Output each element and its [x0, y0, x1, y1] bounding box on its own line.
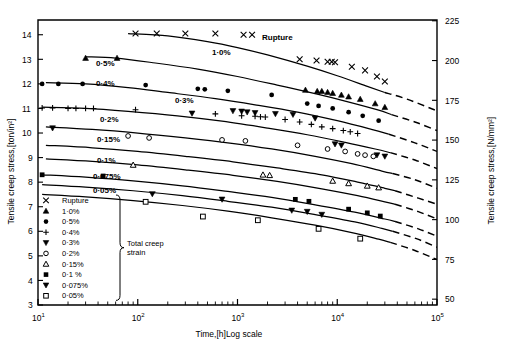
- marker-circle-filled: [44, 219, 49, 224]
- legend-item-label: 0·05%: [62, 291, 84, 300]
- marker-circle-open: [343, 149, 348, 154]
- marker-circle-filled: [316, 104, 321, 109]
- legend-item-label: 0·5%: [62, 217, 80, 226]
- marker-circle-open: [243, 139, 248, 144]
- curve-label-rupture: Rupture: [262, 33, 293, 42]
- marker-circle-filled: [330, 106, 335, 111]
- curve-label-0-1: 0·1%: [97, 156, 116, 165]
- marker-circle-filled: [360, 113, 365, 118]
- marker-circle-filled: [225, 88, 230, 93]
- curve-label-0-05: 0·05%: [93, 186, 116, 195]
- legend-group-label-line2: strain: [127, 248, 145, 257]
- marker-circle-open: [44, 251, 49, 256]
- marker-square-open: [201, 214, 206, 219]
- marker-square-filled: [365, 210, 370, 215]
- curve-label-0-5: 0·5%: [96, 59, 115, 68]
- marker-square-filled: [40, 172, 45, 177]
- y-tick-label-left: 12: [22, 79, 32, 89]
- y-tick-label-left: 7: [28, 202, 33, 212]
- y-tick-label-left: 4: [28, 276, 33, 286]
- marker-circle-open: [220, 138, 225, 143]
- marker-circle-filled: [376, 118, 381, 123]
- marker-square-open: [316, 226, 321, 231]
- marker-circle-filled: [346, 110, 351, 115]
- marker-square-open: [44, 294, 49, 299]
- y-tick-label-left: 11: [22, 104, 31, 114]
- y-tick-label-left: 5: [28, 251, 33, 261]
- y-tick-label-right: 100: [445, 215, 459, 225]
- marker-circle-filled: [80, 82, 85, 87]
- marker-circle-open: [126, 134, 131, 139]
- legend-item-label: 1·0%: [62, 207, 80, 216]
- curve-label-0-4: 0·3%: [175, 96, 194, 105]
- marker-square-filled: [44, 272, 49, 277]
- marker-square-filled: [307, 199, 312, 204]
- legend-item-label: 0·2%: [62, 249, 80, 258]
- legend-item-label: 0·15%: [62, 260, 84, 269]
- marker-circle-filled: [269, 93, 274, 98]
- y-tick-label-right: 175: [445, 96, 459, 106]
- legend-item-label: 0·1 %: [62, 270, 82, 279]
- y-tick-label-right: 125: [445, 175, 459, 185]
- y-tick-label-right: 200: [445, 56, 459, 66]
- marker-square-filled: [346, 207, 351, 212]
- marker-circle-filled: [40, 82, 45, 87]
- marker-circle-filled: [305, 101, 310, 106]
- creep-stress-vs-time-chart: 1011021031041053456789101112131450751001…: [0, 0, 507, 345]
- y-tick-label-left: 10: [22, 128, 32, 138]
- legend-item-label: 0·4%: [62, 228, 80, 237]
- chart-figure: 1011021031041053456789101112131450751001…: [0, 0, 507, 345]
- marker-circle-filled: [56, 82, 61, 87]
- marker-circle-open: [371, 154, 376, 159]
- legend-group-label-line1: Total creep: [127, 239, 164, 248]
- y-tick-label-left: 8: [28, 177, 33, 187]
- legend-item-label: 0·3%: [62, 238, 80, 247]
- marker-circle-filled: [202, 87, 207, 92]
- marker-circle-filled: [195, 86, 200, 91]
- legend-item-label: 0·075%: [62, 281, 88, 290]
- y-tick-label-right: 150: [445, 135, 459, 145]
- legend-item-label: Rupture: [62, 196, 89, 205]
- marker-circle-open: [147, 136, 152, 141]
- x-axis-title: Time,[h]Log scale: [196, 329, 263, 339]
- y-tick-label-left: 3: [28, 300, 33, 310]
- y-tick-label-left: 13: [22, 55, 32, 65]
- curve-label-0-2: 0·2%: [100, 115, 119, 124]
- y-axis-title-left: Tensile creep stress,[ton/in²]: [6, 119, 16, 225]
- y-tick-label-right: 225: [445, 16, 459, 26]
- curve-label-1-0: 1·0%: [212, 48, 231, 57]
- marker-square-open: [255, 218, 260, 223]
- marker-circle-open: [295, 143, 300, 148]
- y-axis-title-right: Tensile creep stress,[N/mm²]: [486, 117, 496, 225]
- marker-circle-filled: [143, 83, 148, 88]
- curve-label-0-075: 0·075%: [93, 172, 121, 181]
- y-tick-label-left: 9: [28, 153, 33, 163]
- y-tick-label-right: 75: [445, 255, 455, 265]
- y-tick-label-left: 6: [28, 226, 33, 236]
- marker-square-open: [143, 199, 148, 204]
- curve-label-0-3: 0·4%: [96, 79, 115, 88]
- marker-circle-open: [325, 147, 330, 152]
- marker-square-filled: [378, 214, 383, 219]
- curve-label-0-15: 0·15%: [97, 135, 120, 144]
- marker-circle-open: [355, 152, 360, 157]
- marker-circle-open: [363, 153, 368, 158]
- marker-square-filled: [293, 197, 298, 202]
- y-tick-label-right: 50: [445, 294, 455, 304]
- marker-square-open: [358, 236, 363, 241]
- y-tick-label-left: 14: [22, 30, 32, 40]
